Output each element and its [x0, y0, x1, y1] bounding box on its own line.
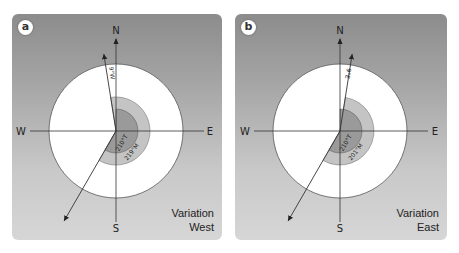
true-north-arrowhead — [338, 38, 343, 44]
east-label: E — [432, 126, 438, 137]
true-north-arrowhead — [114, 38, 119, 44]
caption-line-2: East — [396, 220, 439, 234]
panel-badge: b — [241, 20, 256, 35]
panel-variation-west: N S W E 9°W 210°T 219°M a Variation West — [12, 14, 222, 240]
caption: Variation West — [171, 206, 214, 234]
south-label: S — [337, 223, 343, 234]
caption: Variation East — [396, 206, 439, 234]
caption-line-2: West — [171, 220, 214, 234]
east-label: E — [207, 126, 213, 137]
panel-badge: a — [18, 20, 33, 35]
north-label: N — [112, 25, 119, 36]
north-label: N — [336, 25, 343, 36]
caption-line-1: Variation — [171, 206, 214, 220]
south-label: S — [113, 223, 119, 234]
west-label: W — [240, 126, 250, 137]
panel-variation-east: N S W E 9°E 210°T 201°M b Variation East — [235, 14, 447, 240]
west-label: W — [16, 126, 26, 137]
caption-line-1: Variation — [396, 206, 439, 220]
